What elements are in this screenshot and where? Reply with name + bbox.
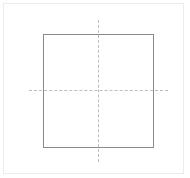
vertical-crosshair-line [98, 20, 99, 162]
diagram-canvas [0, 0, 190, 178]
